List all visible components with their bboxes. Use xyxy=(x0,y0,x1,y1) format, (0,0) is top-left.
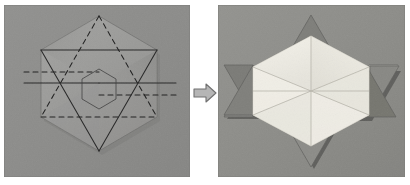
after-diagram xyxy=(218,5,405,177)
figure-stage: Flat creased hexagon xyxy=(0,0,410,185)
step-arrow xyxy=(192,81,218,105)
photo-before-fold: Flat creased hexagon xyxy=(4,5,190,177)
photo-after-fold: Folded six-pointed star xyxy=(218,5,405,177)
right-arrow-icon xyxy=(192,81,218,105)
before-diagram xyxy=(4,5,190,177)
right-arrow-shape xyxy=(194,84,216,102)
